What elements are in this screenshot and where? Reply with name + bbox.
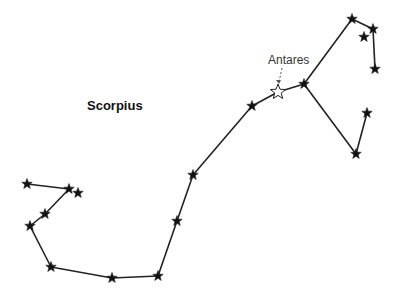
constellation-line bbox=[373, 29, 375, 69]
constellation-line bbox=[158, 221, 177, 276]
constellation-line bbox=[177, 175, 193, 221]
star-icon bbox=[25, 221, 35, 231]
constellation-line bbox=[304, 84, 356, 154]
constellation-line bbox=[304, 19, 352, 84]
constellation-line bbox=[45, 189, 69, 214]
star-icon bbox=[153, 271, 163, 281]
star-icon bbox=[46, 262, 56, 272]
constellation-line bbox=[356, 113, 367, 154]
star-icon bbox=[347, 14, 357, 24]
star-icon bbox=[22, 179, 32, 189]
constellation-line bbox=[51, 267, 112, 278]
star-icon bbox=[370, 64, 380, 74]
antares-label: Antares bbox=[268, 53, 309, 67]
constellation-line bbox=[193, 106, 252, 175]
constellation-line bbox=[112, 276, 158, 278]
constellation-line bbox=[27, 184, 69, 189]
constellation-line bbox=[30, 226, 51, 267]
antares-star-icon bbox=[270, 84, 285, 98]
constellation-title: Scorpius bbox=[87, 98, 143, 113]
star-icon bbox=[73, 188, 83, 198]
antares-pointer-arrow bbox=[276, 68, 282, 84]
star-icon bbox=[172, 216, 182, 226]
star-icon bbox=[107, 273, 117, 283]
star-icon bbox=[247, 101, 257, 111]
star-icon bbox=[359, 32, 369, 42]
constellation-diagram bbox=[0, 0, 399, 295]
constellation-lines bbox=[27, 19, 375, 278]
